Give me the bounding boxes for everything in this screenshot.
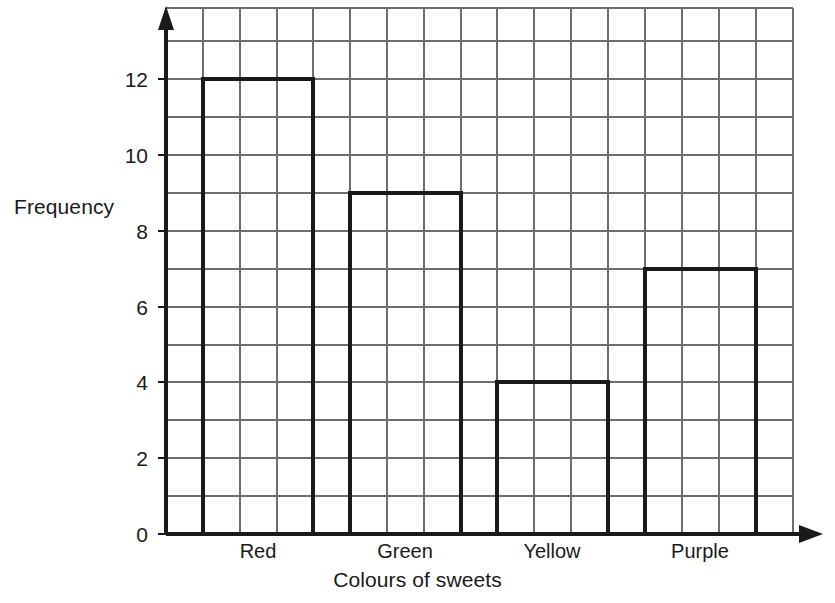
y-axis-arrow-icon [158, 6, 174, 30]
bar-chart: Frequency 0 2 4 6 8 10 12 Red Green Yell… [0, 0, 835, 603]
y-tick-label-0: 0 [108, 523, 148, 547]
bar-purple [645, 269, 756, 534]
y-tick-label-10: 10 [108, 144, 148, 168]
y-axis [158, 6, 174, 534]
x-category-label-purple: Purple [640, 540, 760, 563]
bar-green [350, 193, 461, 534]
y-tick-label-6: 6 [108, 296, 148, 320]
y-tick-label-2: 2 [108, 447, 148, 471]
y-axis-title: Frequency [14, 195, 114, 219]
x-axis-arrow-icon [799, 525, 823, 543]
x-category-label-green: Green [345, 540, 465, 563]
x-category-label-red: Red [198, 540, 318, 563]
y-tick-label-12: 12 [108, 68, 148, 92]
y-tick-label-8: 8 [108, 220, 148, 244]
y-tick-label-4: 4 [108, 371, 148, 395]
x-category-label-yellow: Yellow [492, 540, 612, 563]
x-axis-title: Colours of sweets [0, 568, 835, 592]
